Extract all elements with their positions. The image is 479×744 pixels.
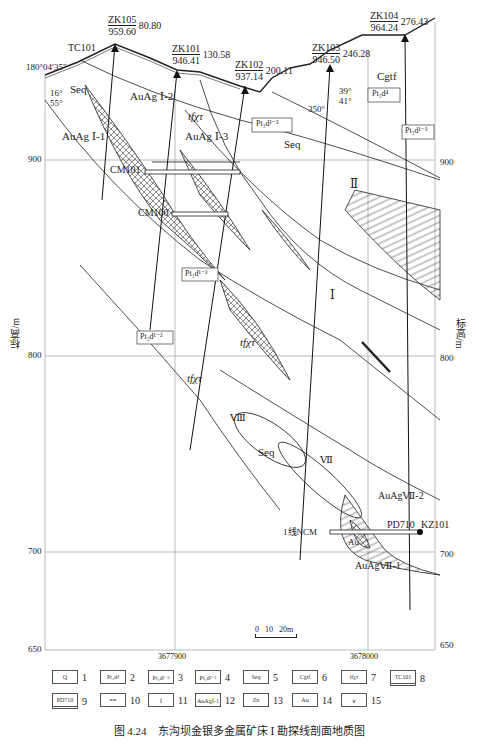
legend-item-3: Pt₃d¹⁻³3 bbox=[148, 670, 183, 684]
drill-zk102: ZK102937.14 200.11 bbox=[235, 59, 293, 82]
scale-bar: 0 10 20m bbox=[255, 625, 297, 638]
label-tfxt-2: tfχτ bbox=[240, 336, 255, 348]
y-tick-800-r: 800 bbox=[440, 353, 454, 363]
legend-item-12: AuAgⅠ-112 bbox=[195, 693, 235, 707]
label-cgtf: Cgtf bbox=[377, 70, 397, 82]
label-au: Au bbox=[348, 537, 359, 547]
label-dip1: 16°55° bbox=[50, 88, 63, 108]
label-ncm: 1线NCM bbox=[283, 525, 317, 538]
label-dip3: 350° bbox=[308, 104, 325, 114]
y-tick-650-l: 650 bbox=[28, 644, 42, 654]
label-zone-7: Ⅶ bbox=[320, 454, 333, 465]
label-zone-8: Ⅷ bbox=[230, 412, 246, 423]
label-pt-d13-a: Pt₃d¹⁻³ bbox=[256, 119, 278, 128]
legend-item-1: Q1 bbox=[52, 670, 87, 684]
label-tfxt-1: tfχτ bbox=[188, 110, 203, 122]
legend-item-5: Seq5 bbox=[243, 670, 278, 684]
label-pt-d12: Pt₃d¹⁻² bbox=[140, 332, 162, 341]
legend-item-9: PD7109 bbox=[52, 693, 87, 709]
y-tick-700-l: 700 bbox=[28, 546, 42, 556]
label-tc101: TC101 bbox=[68, 42, 96, 53]
x-tick-3678000: 3678000 bbox=[350, 652, 378, 661]
label-azimuth: 180°04′35″ bbox=[26, 62, 67, 72]
label-seq-1: Seq bbox=[70, 83, 87, 95]
label-zone-1: Ⅰ bbox=[330, 288, 335, 303]
legend-item-14: Au14 bbox=[292, 693, 332, 707]
drill-zk101: ZK101946.41 130.58 bbox=[172, 43, 230, 66]
legend-item-13: Zn13 bbox=[243, 693, 283, 707]
label-zone-2: Ⅱ bbox=[350, 177, 358, 192]
legend-item-11: Ⅰ11 bbox=[148, 693, 188, 707]
legend-item-7: tfχτ7 bbox=[341, 670, 376, 684]
orebody-augi-3 bbox=[180, 150, 250, 250]
y-tick-650-r: 650 bbox=[440, 640, 454, 650]
drill-zk104: ZK104964.24 276.43 bbox=[370, 10, 428, 33]
label-augi-3: AuAg Ⅰ-3 bbox=[185, 130, 228, 143]
drill-zk105: ZK105959.60 80.80 bbox=[108, 14, 161, 37]
legend-item-8: TC1018 bbox=[390, 670, 425, 686]
label-pt-d13-b: Pt₃d¹⁻³ bbox=[405, 126, 427, 135]
label-augi-2: AuAg Ⅰ-2 bbox=[130, 90, 173, 103]
cross-section-diagram bbox=[0, 0, 479, 744]
label-tfxt-3: tfχτ bbox=[187, 372, 202, 384]
label-pd710: PD710 bbox=[387, 519, 415, 530]
legend-item-2: Pt₃d⁴2 bbox=[100, 670, 135, 684]
label-aug7-2: AuAgⅦ-2 bbox=[378, 490, 424, 501]
legend-item-6: Cgtf6 bbox=[292, 670, 327, 684]
y-tick-800-l: 800 bbox=[28, 350, 42, 360]
y-tick-700-r: 700 bbox=[440, 549, 454, 559]
legend-item-10: ≡≡10 bbox=[100, 693, 140, 707]
y-tick-900-r: 900 bbox=[440, 157, 454, 167]
label-kz101: KZ101 bbox=[421, 519, 449, 530]
label-pt-d4: Pt₃d⁴ bbox=[372, 89, 388, 98]
label-seq-2: Seq bbox=[284, 138, 301, 150]
label-seq-3: Seq bbox=[258, 446, 275, 458]
legend-item-4: Pt₃d¹⁻²4 bbox=[195, 670, 230, 684]
label-augi-1: AuAg Ⅰ-1 bbox=[62, 130, 105, 143]
orebody-zone2 bbox=[345, 190, 440, 300]
orebody-augi-main bbox=[220, 280, 290, 380]
legend-item-15: ∨15 bbox=[341, 693, 381, 707]
label-pt-d13-c: Pt₃d¹⁻³ bbox=[185, 269, 207, 278]
y-axis-label-left: 标高/m bbox=[8, 318, 23, 349]
x-tick-3677900: 3677900 bbox=[158, 652, 186, 661]
y-axis-label-right: 标高/m bbox=[452, 318, 467, 349]
label-aug7-1: AuAgⅦ-1 bbox=[355, 560, 401, 571]
label-dip2: 39°41° bbox=[339, 86, 352, 106]
figure-caption: 图 4.24 东沟坝金银多金属矿床 Ⅰ 勘探线剖面地质图 bbox=[0, 722, 479, 738]
drill-zk103: ZK103946.50 246.28 bbox=[312, 42, 370, 65]
y-tick-900-l: 900 bbox=[28, 154, 42, 164]
label-cm101: CM101 bbox=[110, 164, 141, 175]
label-cm100: CM100 bbox=[138, 207, 169, 218]
